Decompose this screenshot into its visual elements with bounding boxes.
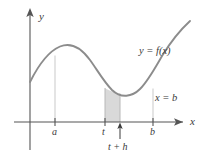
vertical-line-label: x = b <box>155 93 177 104</box>
x-axis-label: x <box>190 116 195 127</box>
function-label: y = f(x) <box>139 46 171 57</box>
tick-label-b: b <box>150 127 155 137</box>
tick-label-t-plus-h: t + h <box>108 142 128 152</box>
tick-label-t: t <box>102 127 105 137</box>
function-curve <box>30 21 190 96</box>
y-axis-label: y <box>39 11 44 22</box>
tick-label-a: a <box>52 127 57 137</box>
calculus-figure: y x a t b t + h y = f(x) x = b <box>0 0 205 159</box>
